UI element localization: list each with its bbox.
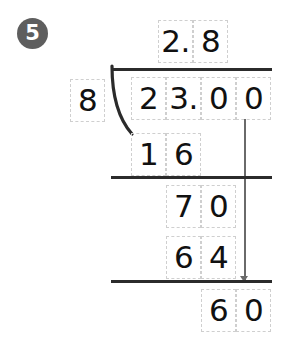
step-1-cell-2[interactable]: 6 — [166, 133, 201, 176]
dividend-cell-3[interactable]: 0 — [201, 77, 236, 120]
step-3-cell-1[interactable]: 6 — [166, 236, 201, 279]
dividend-cell-2[interactable]: 3. — [166, 77, 201, 120]
problem-number-badge: 5 — [17, 18, 48, 49]
subtraction-rule-2 — [111, 280, 272, 283]
dividend-cell-4[interactable]: 0 — [236, 77, 271, 120]
step-2-cell-1[interactable]: 7 — [166, 185, 201, 228]
step-2-cell-2[interactable]: 0 — [201, 185, 236, 228]
step-4-cell-1[interactable]: 6 — [201, 289, 236, 332]
dividend-cell-1[interactable]: 2 — [131, 77, 166, 120]
long-division-worksheet: 5 2. 8 8 2 3. 0 0 1 6 7 0 6 4 6 0 — [0, 0, 291, 357]
step-4-cell-2[interactable]: 0 — [236, 289, 271, 332]
bring-down-line — [244, 119, 246, 282]
step-1-cell-1[interactable]: 1 — [131, 133, 166, 176]
subtraction-rule-1 — [111, 176, 272, 179]
step-3-cell-2[interactable]: 4 — [201, 236, 236, 279]
vinculum-rule — [111, 68, 272, 71]
quotient-cell-2[interactable]: 8 — [193, 20, 228, 63]
divisor-cell[interactable]: 8 — [70, 79, 105, 122]
quotient-cell-1[interactable]: 2. — [158, 20, 193, 63]
